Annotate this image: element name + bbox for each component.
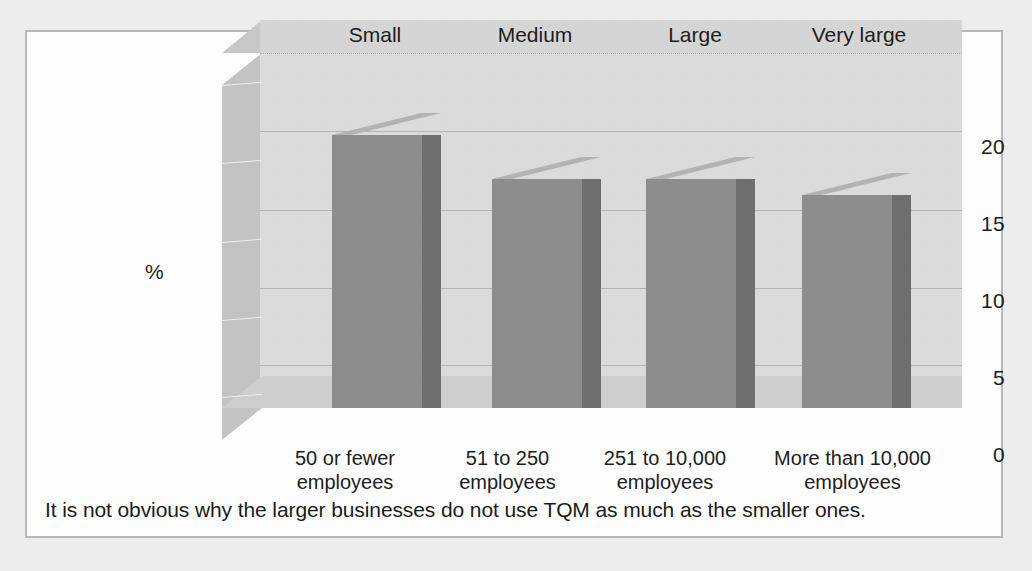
x-category-label-3-line1: More than 10,000 [745, 446, 960, 470]
x-category-label-3: More than 10,000 employees [745, 446, 960, 494]
bar-very-large-front [802, 195, 892, 408]
y-axis-title: % [145, 260, 164, 284]
bar-large-side [736, 179, 755, 408]
x-category-label-2-line2: employees [575, 470, 755, 494]
group-label-very-large: Very large [774, 23, 944, 47]
x-category-label-0: 50 or fewer employees [255, 446, 435, 494]
top-band-left-edge [222, 20, 262, 53]
bar-small [332, 113, 422, 408]
x-category-label-0-line1: 50 or fewer [255, 446, 435, 470]
group-label-large: Large [620, 23, 770, 47]
bar-medium-front [492, 179, 582, 408]
x-category-label-2: 251 to 10,000 employees [575, 446, 755, 494]
bar-large [646, 157, 736, 408]
figure-caption: It is not obvious why the larger busines… [45, 498, 985, 522]
bar-small-front [332, 135, 422, 408]
x-category-label-3-line2: employees [745, 470, 960, 494]
bar-large-front [646, 179, 736, 408]
group-label-small: Small [300, 23, 450, 47]
bar-medium [492, 157, 582, 408]
plot-area: Small Medium Large Very large [222, 53, 962, 440]
bar-very-large [802, 173, 892, 408]
x-category-label-1: 51 to 250 employees [425, 446, 590, 494]
x-category-label-1-line2: employees [425, 470, 590, 494]
x-category-label-2-line1: 251 to 10,000 [575, 446, 755, 470]
bar-chart: % 20 15 10 5 0 Small Me [27, 32, 1005, 487]
figure-panel: % 20 15 10 5 0 Small Me [25, 30, 1003, 538]
x-category-label-1-line1: 51 to 250 [425, 446, 590, 470]
group-label-medium: Medium [460, 23, 610, 47]
bar-small-side [422, 135, 441, 408]
bar-medium-side [582, 179, 601, 408]
bar-very-large-side [892, 195, 911, 408]
gridline-top [260, 53, 962, 54]
x-category-label-0-line2: employees [255, 470, 435, 494]
